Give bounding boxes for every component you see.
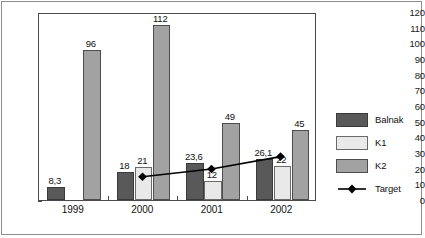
legend-label: K1 xyxy=(375,137,386,148)
legend-item-target[interactable]: Target xyxy=(336,177,416,200)
legend-label: K2 xyxy=(375,160,386,171)
chart-legend: BalnakK1K2Target xyxy=(336,108,416,200)
legend-swatch-k1 xyxy=(336,136,368,150)
chart-figure: 0102030405060708090100110120 8,396182111… xyxy=(0,0,425,238)
x-axis: 1999200020012002 xyxy=(38,0,316,238)
x-axis-tick-mark xyxy=(108,196,109,201)
legend-item-balnak[interactable]: Balnak xyxy=(336,108,416,131)
y-axis-tick-label: 120 xyxy=(391,8,425,18)
y-axis-tick-label: 80 xyxy=(391,71,425,81)
x-axis-tick-label: 2002 xyxy=(270,204,292,215)
y-axis-tick-label: 90 xyxy=(391,55,425,65)
legend-label: Balnak xyxy=(375,114,403,125)
legend-item-k1[interactable]: K1 xyxy=(336,131,416,154)
x-axis-tick-mark xyxy=(177,196,178,201)
y-axis-tick-label: 110 xyxy=(391,24,425,34)
legend-diamond-marker-icon xyxy=(336,182,368,196)
y-axis-tick-label: 100 xyxy=(391,40,425,50)
legend-label: Target xyxy=(375,183,401,194)
x-axis-tick-label: 1999 xyxy=(62,204,84,215)
y-axis-tick-label: 70 xyxy=(391,87,425,97)
legend-swatch-balnak xyxy=(336,113,368,127)
x-axis-tick-label: 2001 xyxy=(201,204,223,215)
legend-swatch-k2 xyxy=(336,159,368,173)
legend-item-k2[interactable]: K2 xyxy=(336,154,416,177)
x-axis-tick-label: 2000 xyxy=(131,204,153,215)
x-axis-tick-mark xyxy=(247,196,248,201)
